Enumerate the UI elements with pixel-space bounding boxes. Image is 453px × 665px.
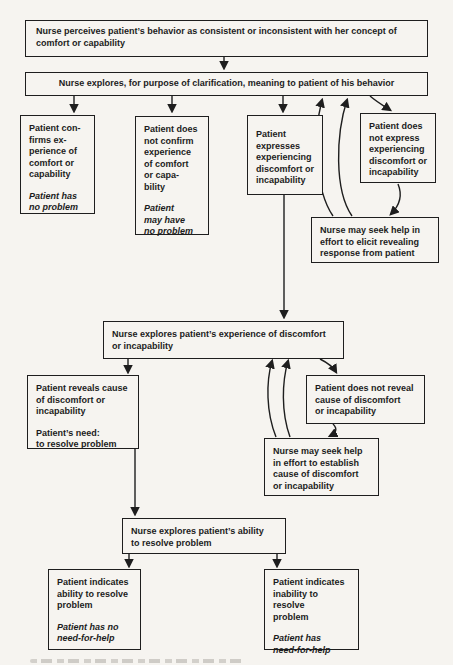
node-indicates-ability: Patient indicates ability to resolve pro… (48, 569, 141, 650)
cropped-caption-fragment (30, 659, 245, 663)
node-patient-does-not-express: Patient does not express experiencing di… (360, 113, 436, 183)
node-patient-confirms: Patient con- firms ex- perience of comfo… (20, 115, 95, 214)
node-patient-does-not-confirm: Patient does not confirm experience of c… (135, 116, 209, 235)
node-text: Patient does not express experiencing di… (369, 121, 428, 179)
arrow-explore-notreveal (320, 359, 336, 372)
node-text: Patient con- firms ex- perience of comfo… (29, 123, 87, 181)
node-text: Nurse explores patient’s experience of d… (112, 329, 336, 352)
node-patient-reveals-cause: Patient reveals cause of discomfort or i… (27, 375, 139, 449)
node-nurse-perceives: Nurse perceives patient’s behavior as co… (25, 20, 428, 57)
node-note: Patient has need-for-help (273, 633, 351, 656)
node-seek-help-elicit: Nurse may seek help in effort to elicit … (311, 217, 439, 263)
node-text: Nurse may seek help in effort to establi… (273, 446, 371, 492)
node-text: Patient does not confirm experience of c… (144, 124, 201, 193)
arrow-seekestablish-explore-2 (283, 361, 290, 437)
node-explore-discomfort: Nurse explores patient’s experience of d… (103, 321, 344, 359)
arrow-seekelicit-clarify-2 (339, 100, 352, 216)
node-seek-help-establish: Nurse may seek help in effort to establi… (264, 438, 379, 496)
node-note: Patient has no problem (29, 191, 87, 214)
node-text: Nurse explores, for purpose of clarifica… (59, 78, 395, 90)
arrow-clarify-notexpress (370, 96, 390, 110)
node-text: Nurse explores patient’s ability to reso… (131, 526, 278, 549)
node-explore-ability: Nurse explores patient’s ability to reso… (122, 518, 286, 554)
arrow-seekestablish-explore-1 (268, 361, 276, 437)
node-text: Patient expresses experiencing discomfor… (256, 129, 315, 187)
node-patient-does-not-reveal: Patient does not reveal cause of discomf… (306, 375, 425, 424)
node-nurse-explores-clarification: Nurse explores, for purpose of clarifica… (25, 72, 428, 96)
node-text: Patient indicates ability to resolve pro… (57, 577, 133, 612)
flowchart-page: Nurse perceives patient’s behavior as co… (0, 0, 453, 665)
node-text: Patient indicates inability to resolve p… (273, 577, 351, 623)
arrow-notexpress-seekelicit (391, 184, 400, 214)
node-note: Patient may have no problem (144, 203, 201, 238)
node-text: Nurse may seek help in effort to elicit … (320, 225, 431, 260)
arrow-notreveal-seekestablish (330, 424, 336, 436)
node-text: Patient does not reveal cause of discomf… (315, 383, 417, 418)
node-need: Patient’s need: to resolve problem (36, 428, 131, 451)
node-text: Patient reveals cause of discomfort or i… (36, 383, 131, 418)
node-note: Patient has no need-for-help (57, 622, 133, 645)
node-indicates-inability: Patient indicates inability to resolve p… (264, 569, 359, 650)
node-patient-expresses: Patient expresses experiencing discomfor… (247, 115, 323, 195)
node-text: Nurse perceives patient’s behavior as co… (36, 26, 417, 49)
